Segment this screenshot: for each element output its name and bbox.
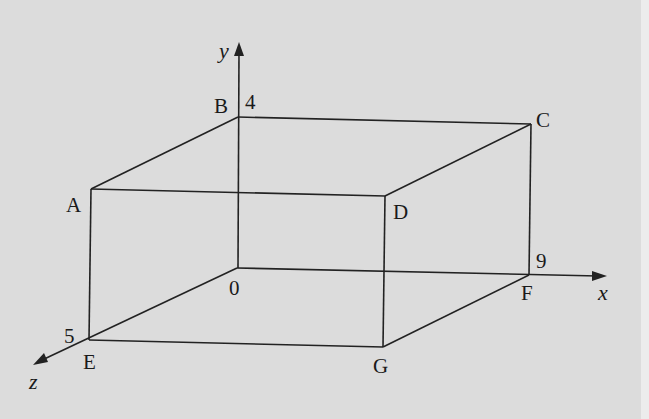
y-axis-line <box>238 52 239 268</box>
edge-CF <box>529 124 531 275</box>
x-axis-label: x <box>597 280 608 305</box>
vertex-label-A: A <box>66 193 82 217</box>
vertex-label-E: E <box>83 350 96 374</box>
y-tick-value: 4 <box>245 90 256 114</box>
edge-GF <box>383 275 529 347</box>
z-tick-value: 5 <box>64 324 75 348</box>
y-axis-label: y <box>217 38 229 63</box>
vertex-label-D: D <box>393 200 408 224</box>
x-tick-value: 9 <box>536 249 547 273</box>
z-axis-arrowhead-icon <box>33 353 48 365</box>
y-axis-arrowhead-icon <box>234 42 244 56</box>
diagram-canvas: y x z B C A D 0 F E G 4 9 5 <box>0 0 649 419</box>
edge-BC <box>238 117 531 124</box>
z-axis-label: z <box>28 369 38 394</box>
edge-DC <box>385 124 531 196</box>
origin-label: 0 <box>229 276 240 300</box>
vertex-label-B: B <box>214 94 228 118</box>
edge-BA <box>91 117 238 189</box>
vertex-label-F: F <box>521 281 533 305</box>
vertex-label-C: C <box>536 108 550 132</box>
edge-EG <box>89 340 383 347</box>
cuboid-diagram: y x z B C A D 0 F E G 4 9 5 <box>0 0 649 419</box>
edge-AE <box>89 189 91 340</box>
edge-DG <box>383 196 385 347</box>
vertex-label-G: G <box>373 354 388 378</box>
